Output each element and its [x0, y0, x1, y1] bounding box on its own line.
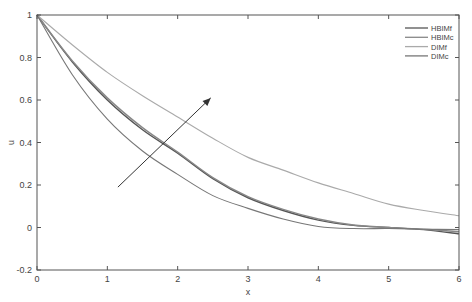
- axes: 0123456-0.200.20.40.60.81xu: [6, 10, 462, 297]
- x-tick-label: 1: [105, 274, 110, 284]
- x-tick-label: 6: [456, 274, 461, 284]
- series-line-hbimf: [37, 15, 459, 234]
- x-tick-label: 2: [175, 274, 180, 284]
- y-tick-label: 0.4: [19, 138, 32, 148]
- line-chart: 0123456-0.200.20.40.60.81xu HBIMfHBIMcDI…: [0, 0, 472, 302]
- y-tick-label: 1: [27, 10, 32, 20]
- series-line-dimf: [37, 15, 459, 216]
- y-tick-label: 0.2: [19, 180, 32, 190]
- x-tick-label: 0: [34, 274, 39, 284]
- y-tick-label: -0.2: [16, 265, 32, 275]
- y-tick-label: 0: [27, 223, 32, 233]
- legend-label-dimc: DIMc: [431, 52, 449, 61]
- x-tick-label: 3: [245, 274, 250, 284]
- x-tick-label: 5: [386, 274, 391, 284]
- legend-label-hbimf: HBIMf: [431, 24, 453, 33]
- legend-label-hbimc: HBIMc: [431, 33, 454, 42]
- x-axis-label: x: [246, 287, 251, 297]
- legend-label-dimf: DIMf: [431, 43, 448, 52]
- plot-area: [37, 15, 459, 234]
- axes-frame: [37, 15, 459, 270]
- x-tick-label: 4: [316, 274, 321, 284]
- legend: HBIMfHBIMcDIMfDIMc: [405, 24, 454, 61]
- y-tick-label: 0.6: [19, 95, 32, 105]
- series-line-hbimc: [37, 15, 459, 232]
- y-tick-label: 0.8: [19, 53, 32, 63]
- y-axis-label: u: [6, 140, 16, 145]
